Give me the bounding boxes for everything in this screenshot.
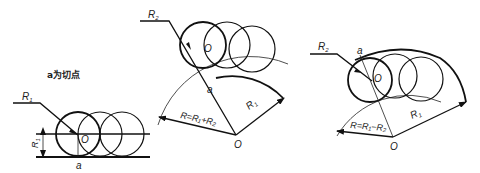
diagram-canvas: a为切点 R1 O a R1 R2 O a: [0, 0, 480, 173]
arc-radius-line: [393, 102, 466, 137]
arc-radius-label: R1: [408, 106, 423, 121]
arc-radius-label: R1: [243, 96, 259, 112]
center-large-label: O: [234, 139, 242, 150]
center-label: O: [81, 134, 89, 145]
tangent-point-label: a: [76, 160, 82, 171]
locus-arc: [158, 57, 288, 125]
radius-leader-label: R2: [318, 41, 329, 53]
center-small-label: O: [374, 73, 382, 84]
figure-external-tangent: R2 O a R1 R=R₁+R₂ O: [140, 9, 288, 150]
center-small-label: O: [204, 43, 212, 54]
figure-tangent-to-line: a为切点 R1 O a R1: [13, 69, 150, 171]
circle-3: [229, 26, 275, 72]
formula-label: R=R₁−R₂: [350, 120, 388, 133]
tangent-point-label: a: [357, 45, 363, 56]
figure-internal-tangent: R2 a O R1 R=R₁−R₂ O: [310, 41, 466, 152]
radius-leader-line: [13, 103, 78, 135]
tangent-point-label: a: [207, 84, 213, 95]
radius-leader-label: R2: [148, 9, 159, 21]
arrow-head: [186, 42, 191, 50]
offset-dimension-label: R1: [30, 138, 41, 148]
formula-label: R=R₁+R₂: [180, 110, 218, 127]
radius-leader-line: [310, 54, 372, 81]
radius-leader-label: R1: [22, 91, 33, 103]
given-arc: [216, 76, 283, 98]
center-large-label: O: [390, 141, 398, 152]
caption-tangent-point: a为切点: [47, 69, 80, 80]
circle-3: [399, 57, 443, 101]
